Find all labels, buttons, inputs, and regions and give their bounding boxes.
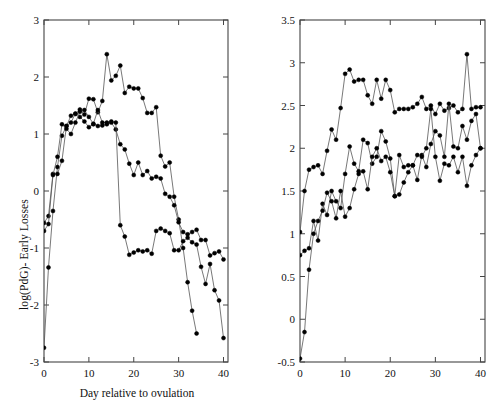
data-point-marker bbox=[361, 169, 365, 173]
data-point-marker bbox=[109, 78, 113, 82]
data-point-marker bbox=[456, 170, 460, 174]
data-point-marker bbox=[55, 165, 59, 169]
data-point-marker bbox=[51, 173, 55, 177]
data-point-marker bbox=[447, 102, 451, 106]
data-point-marker bbox=[154, 229, 158, 233]
data-point-marker bbox=[460, 107, 464, 111]
y-tick-label: -3 bbox=[30, 356, 40, 368]
data-point-marker bbox=[357, 172, 361, 176]
data-point-marker bbox=[388, 170, 392, 174]
data-point-marker bbox=[73, 121, 77, 125]
data-point-marker bbox=[451, 145, 455, 149]
data-point-marker bbox=[181, 246, 185, 250]
data-point-marker bbox=[406, 163, 410, 167]
data-point-marker bbox=[465, 138, 469, 142]
data-point-marker bbox=[168, 195, 172, 199]
y-tick-label: 1 bbox=[290, 228, 296, 240]
data-point-marker bbox=[159, 176, 163, 180]
y-tick-label: 3.5 bbox=[281, 14, 295, 26]
data-point-marker bbox=[334, 216, 338, 220]
data-point-marker bbox=[415, 178, 419, 182]
data-point-marker bbox=[397, 107, 401, 111]
data-point-marker bbox=[469, 163, 473, 167]
data-point-marker bbox=[442, 162, 446, 166]
data-point-marker bbox=[361, 78, 365, 82]
data-point-marker bbox=[330, 127, 334, 131]
data-point-marker bbox=[393, 110, 397, 114]
data-point-marker bbox=[321, 172, 325, 176]
data-point-marker bbox=[343, 215, 347, 219]
data-point-marker bbox=[181, 230, 185, 234]
data-point-marker bbox=[186, 236, 190, 240]
data-point-marker bbox=[303, 249, 307, 253]
data-point-marker bbox=[190, 240, 194, 244]
data-point-marker bbox=[78, 110, 82, 114]
series-line bbox=[44, 110, 224, 338]
data-point-marker bbox=[82, 119, 86, 123]
data-point-marker bbox=[195, 228, 199, 232]
data-point-marker bbox=[46, 214, 50, 218]
data-point-marker bbox=[172, 248, 176, 252]
data-point-marker bbox=[217, 298, 221, 302]
data-point-marker bbox=[348, 206, 352, 210]
data-point-marker bbox=[181, 239, 185, 243]
data-point-marker bbox=[456, 146, 460, 150]
data-point-marker bbox=[312, 232, 316, 236]
y-tick-label: -0.5 bbox=[278, 356, 296, 368]
x-tick-label: 40 bbox=[218, 367, 230, 379]
data-point-marker bbox=[424, 146, 428, 150]
data-point-marker bbox=[172, 195, 176, 199]
data-layer bbox=[298, 52, 482, 360]
y-tick-label: 0 bbox=[34, 185, 40, 197]
data-point-marker bbox=[132, 173, 136, 177]
data-point-marker bbox=[433, 155, 437, 159]
data-point-marker bbox=[442, 109, 446, 113]
data-point-marker bbox=[87, 115, 91, 119]
data-point-marker bbox=[55, 172, 59, 176]
data-point-marker bbox=[123, 91, 127, 95]
data-point-marker bbox=[199, 238, 203, 242]
data-point-marker bbox=[474, 112, 478, 116]
data-point-marker bbox=[51, 209, 55, 213]
data-point-marker bbox=[150, 111, 154, 115]
data-point-marker bbox=[42, 229, 46, 233]
data-point-marker bbox=[159, 154, 163, 158]
data-point-marker bbox=[69, 114, 73, 118]
x-tick-label: 20 bbox=[385, 367, 397, 379]
data-point-marker bbox=[312, 219, 316, 223]
data-point-marker bbox=[217, 249, 221, 253]
data-point-marker bbox=[339, 106, 343, 110]
data-point-marker bbox=[213, 251, 217, 255]
data-point-marker bbox=[136, 248, 140, 252]
data-point-marker bbox=[348, 68, 352, 72]
data-point-marker bbox=[195, 332, 199, 336]
y-tick-label: 1.5 bbox=[281, 185, 295, 197]
data-point-marker bbox=[213, 288, 217, 292]
data-point-marker bbox=[60, 159, 64, 163]
data-point-marker bbox=[316, 163, 320, 167]
data-point-marker bbox=[415, 102, 419, 106]
data-point-marker bbox=[204, 282, 208, 286]
data-point-marker bbox=[339, 206, 343, 210]
data-point-marker bbox=[127, 162, 131, 166]
data-point-marker bbox=[222, 336, 226, 340]
data-point-marker bbox=[145, 248, 149, 252]
data-point-marker bbox=[60, 122, 64, 126]
data-layer bbox=[42, 52, 226, 350]
clinical-pregnancies-plot: 010203040-0.500.511.522.533.5 bbox=[252, 0, 504, 414]
y-axis-label-left: log(PdG)- Early Losses bbox=[18, 199, 30, 310]
data-point-marker bbox=[69, 121, 73, 125]
data-point-marker bbox=[402, 180, 406, 184]
data-point-marker bbox=[141, 249, 145, 253]
data-point-marker bbox=[186, 280, 190, 284]
data-point-marker bbox=[402, 165, 406, 169]
data-point-marker bbox=[478, 146, 482, 150]
data-point-marker bbox=[96, 108, 100, 112]
data-point-marker bbox=[91, 122, 95, 126]
y-tick-label: 2 bbox=[290, 142, 296, 154]
data-point-marker bbox=[73, 111, 77, 115]
data-point-marker bbox=[411, 105, 415, 109]
data-point-marker bbox=[298, 230, 302, 234]
data-point-marker bbox=[384, 155, 388, 159]
data-point-marker bbox=[114, 121, 118, 125]
